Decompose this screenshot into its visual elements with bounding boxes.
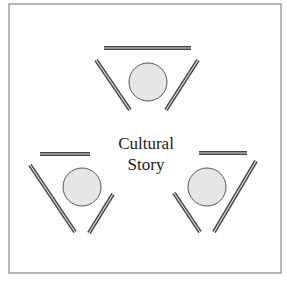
group-top — [96, 48, 198, 110]
group-bottom-right — [174, 153, 256, 232]
bar-inner-2 — [166, 60, 198, 110]
center-label-line2: Story — [128, 155, 165, 174]
circle-bottom-left — [63, 168, 101, 206]
bar-inner-1 — [96, 60, 130, 110]
center-label-line1: Cultural — [118, 134, 174, 153]
group-bottom-left — [30, 154, 113, 233]
cultural-story-diagram: Cultural Story — [0, 0, 287, 281]
circle-top — [129, 63, 167, 101]
circle-bottom-right — [188, 168, 226, 206]
